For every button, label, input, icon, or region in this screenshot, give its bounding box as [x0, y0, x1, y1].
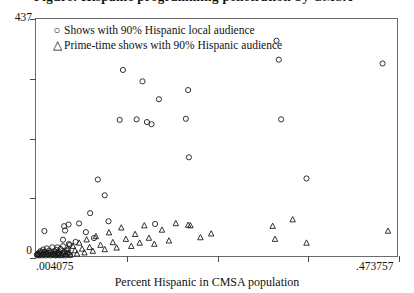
x-axis-tick	[218, 256, 219, 262]
data-point-circle	[42, 228, 47, 233]
data-point-triangle	[110, 239, 115, 244]
clipped-title-descenders: Figure: Hispanic programming penetration…	[0, 0, 414, 9]
data-point-triangle	[129, 243, 134, 248]
clipped-title-text: Figure: Hispanic programming penetration…	[34, 0, 353, 5]
data-point-triangle	[82, 250, 87, 255]
data-point-circle	[183, 116, 188, 121]
data-point-circle	[117, 117, 122, 122]
data-point-circle	[66, 222, 71, 227]
data-point-circle	[186, 87, 191, 92]
data-point-triangle	[132, 231, 137, 236]
data-point-triangle	[76, 240, 81, 245]
y-axis-max-label: 437	[15, 12, 32, 23]
data-point-triangle	[98, 242, 103, 247]
data-point-circle	[380, 61, 385, 66]
data-point-circle	[186, 155, 191, 160]
data-point-layer	[36, 19, 397, 256]
scatter-plot-figure: Figure: Hispanic programming penetration…	[0, 0, 414, 293]
data-point-triangle	[290, 217, 295, 222]
data-point-triangle	[272, 236, 277, 241]
data-point-circle	[102, 193, 107, 198]
data-point-triangle	[304, 240, 309, 245]
series-prime-time	[52, 217, 391, 258]
data-point-triangle	[106, 230, 111, 235]
y-axis-tick	[30, 258, 36, 259]
data-point-circle	[88, 211, 93, 216]
data-point-triangle	[270, 223, 275, 228]
data-point-triangle	[385, 228, 390, 233]
plot-area: ○ Shows with 90% Hispanic local audience…	[35, 18, 398, 257]
data-point-circle	[120, 67, 125, 72]
data-point-triangle	[146, 235, 151, 240]
data-point-circle	[156, 97, 161, 102]
data-point-triangle	[137, 240, 142, 245]
data-point-circle	[152, 221, 157, 226]
data-point-circle	[149, 122, 154, 127]
data-point-circle	[279, 117, 284, 122]
data-point-circle	[76, 221, 81, 226]
data-point-triangle	[84, 237, 89, 242]
data-point-circle	[134, 117, 139, 122]
data-point-triangle	[90, 248, 95, 253]
x-axis-title: Percent Hispanic in CMSA population	[0, 276, 414, 289]
data-point-circle	[274, 38, 279, 43]
data-point-triangle	[159, 227, 164, 232]
x-axis-min-label: .004075	[36, 260, 73, 272]
data-point-circle	[304, 176, 309, 181]
data-point-triangle	[173, 220, 178, 225]
series-shows-local	[34, 38, 385, 258]
data-point-triangle	[198, 234, 203, 239]
data-point-circle	[83, 230, 88, 235]
data-point-circle	[106, 219, 111, 224]
data-point-triangle	[114, 245, 119, 250]
data-point-circle	[276, 57, 281, 62]
data-point-triangle	[142, 223, 147, 228]
data-point-triangle	[87, 244, 92, 249]
x-axis-max-label: .473757	[356, 260, 393, 272]
x-axis-tick	[127, 256, 128, 262]
data-point-circle	[140, 79, 145, 84]
data-point-triangle	[152, 241, 157, 246]
x-axis-tick	[399, 256, 400, 262]
data-point-triangle	[123, 236, 128, 241]
data-point-triangle	[208, 231, 213, 236]
y-axis-min-label: 0	[26, 245, 32, 256]
data-point-triangle	[166, 238, 171, 243]
x-axis-tick	[308, 256, 309, 262]
data-point-circle	[60, 237, 65, 242]
data-point-triangle	[119, 225, 124, 230]
data-point-circle	[95, 177, 100, 182]
